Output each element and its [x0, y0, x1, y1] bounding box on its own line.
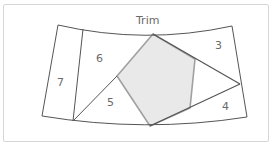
region-label-6: 6 — [96, 52, 103, 65]
center-pentagon — [117, 34, 195, 126]
region-label-5: 5 — [107, 96, 114, 109]
region-label-3: 3 — [215, 39, 222, 52]
divider-7-6 — [73, 29, 83, 121]
title-label: Trim — [135, 14, 159, 27]
region-label-4: 4 — [222, 100, 229, 113]
region-label-7: 7 — [57, 76, 64, 89]
trim-diagram: Trim 3 4 5 6 7 — [0, 0, 274, 148]
